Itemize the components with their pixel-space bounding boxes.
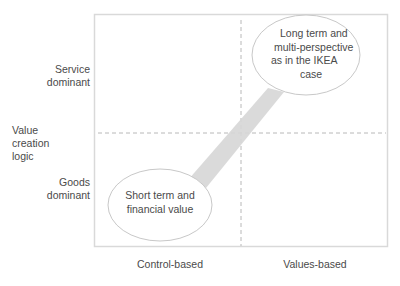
y-axis-title: Value creation logic [12,124,49,163]
control-based-label: Control-based [120,258,220,271]
label-line: dominant [30,189,90,202]
y-axis-title-line: creation [12,137,49,150]
service-dominant-label: Service dominant [30,63,90,89]
ellipse-text-line: case [262,68,362,82]
label-line: dominant [30,76,90,89]
y-axis-title-line: logic [12,150,49,163]
label-line: Goods [30,176,90,189]
connecting-wedge [188,88,284,188]
ellipse-lower-left-text: Short term and financial value [110,189,210,216]
ellipse-text-line: as in the IKEA [262,54,362,68]
ellipse-text-line: Long term and [262,27,362,41]
ellipse-text-line: multi-perspective [262,41,362,55]
ellipse-text-line: Short term and [110,189,210,203]
y-axis-title-line: Value [12,124,49,137]
ellipse-upper-right-text: Long term and multi-perspective as in th… [262,27,362,81]
goods-dominant-label: Goods dominant [30,176,90,202]
values-based-label: Values-based [265,258,365,271]
ellipse-text-line: financial value [110,203,210,217]
label-line: Service [30,63,90,76]
